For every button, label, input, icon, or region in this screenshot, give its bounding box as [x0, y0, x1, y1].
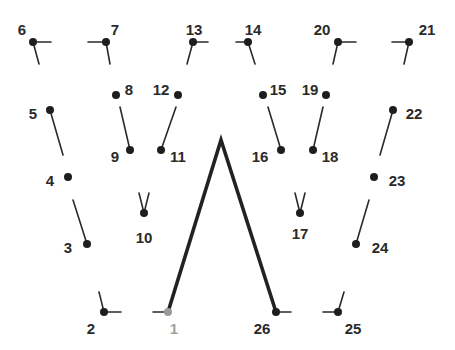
hint-stroke [356, 200, 369, 244]
dot-marker[interactable] [309, 146, 317, 154]
dot-3[interactable]: 3 [64, 239, 91, 256]
dot-marker[interactable] [370, 173, 378, 181]
dot-21[interactable]: 21 [405, 21, 435, 46]
dot-label: 24 [372, 239, 389, 256]
dot-layer: 1234567891011121314151617181920212223242… [18, 21, 436, 337]
dot-marker[interactable] [140, 209, 148, 217]
dot-label: 20 [314, 21, 331, 38]
dot-marker[interactable] [389, 106, 397, 114]
dot-14[interactable]: 14 [244, 21, 262, 46]
dot-marker[interactable] [277, 146, 285, 154]
dot-label: 13 [186, 21, 203, 38]
dot-20[interactable]: 20 [314, 21, 342, 46]
dot-22[interactable]: 22 [389, 105, 422, 122]
dot-23[interactable]: 23 [370, 172, 405, 189]
dot-marker[interactable] [334, 38, 342, 46]
dot-marker[interactable] [112, 91, 120, 99]
dot-marker[interactable] [174, 91, 182, 99]
dot-label: 8 [125, 81, 133, 98]
dot-19[interactable]: 19 [302, 81, 330, 99]
dot-marker[interactable] [352, 240, 360, 248]
dot-marker[interactable] [244, 38, 252, 46]
dot-12[interactable]: 12 [153, 81, 182, 99]
dot-marker[interactable] [189, 38, 197, 46]
dot-1[interactable]: 1 [164, 308, 178, 337]
dot-label: 12 [153, 81, 170, 98]
dot-marker[interactable] [29, 38, 37, 46]
dot-marker[interactable] [102, 38, 110, 46]
dot-5[interactable]: 5 [29, 105, 54, 122]
dot-marker[interactable] [259, 91, 267, 99]
dot-marker[interactable] [64, 173, 72, 181]
dot-label: 2 [87, 320, 95, 337]
dot-marker[interactable] [405, 38, 413, 46]
dot-marker[interactable] [126, 146, 134, 154]
dot-label: 15 [270, 81, 287, 98]
dot-label: 14 [245, 21, 262, 38]
dot-marker[interactable] [83, 240, 91, 248]
dot-marker[interactable] [334, 308, 342, 316]
dot-label: 10 [136, 229, 153, 246]
dot-4[interactable]: 4 [46, 172, 72, 189]
dot-label: 4 [46, 172, 55, 189]
dot-marker[interactable] [100, 308, 108, 316]
dot-16[interactable]: 16 [252, 146, 285, 165]
hint-strokes [33, 42, 409, 312]
dot-8[interactable]: 8 [112, 81, 133, 99]
dot-9[interactable]: 9 [111, 146, 134, 165]
dot-label: 16 [252, 148, 269, 165]
dot-17[interactable]: 17 [292, 209, 309, 242]
dot-11[interactable]: 11 [157, 146, 186, 165]
dot-marker[interactable] [272, 308, 280, 316]
hint-stroke [380, 110, 393, 155]
dot-7[interactable]: 7 [102, 21, 119, 46]
hint-stroke [73, 200, 87, 244]
dot-marker[interactable] [322, 91, 330, 99]
dot-18[interactable]: 18 [309, 146, 338, 165]
dot-marker[interactable] [164, 308, 172, 316]
dot-label: 25 [345, 320, 362, 337]
dot-puzzle-board[interactable]: 1234567891011121314151617181920212223242… [0, 0, 455, 350]
dot-26[interactable]: 26 [254, 308, 280, 337]
dot-label: 11 [170, 148, 186, 165]
hint-stroke [161, 107, 176, 150]
dot-15[interactable]: 15 [259, 81, 286, 99]
dot-6[interactable]: 6 [18, 21, 37, 46]
dot-label: 21 [419, 21, 436, 38]
hint-stroke [120, 107, 130, 150]
dot-label: 5 [29, 105, 37, 122]
dot-marker[interactable] [46, 106, 54, 114]
dot-label: 18 [322, 148, 339, 165]
dot-label: 26 [254, 320, 271, 337]
dot-10[interactable]: 10 [136, 209, 153, 246]
dot-marker[interactable] [296, 209, 304, 217]
dot-label: 23 [389, 172, 406, 189]
dot-label: 17 [292, 225, 309, 242]
dot-label: 6 [18, 21, 26, 38]
dot-25[interactable]: 25 [334, 308, 361, 337]
dot-label: 22 [406, 105, 423, 122]
hint-stroke [268, 107, 281, 150]
dot-label: 7 [111, 21, 119, 38]
drawn-path [168, 140, 276, 312]
dot-marker[interactable] [157, 146, 165, 154]
dot-24[interactable]: 24 [352, 239, 389, 256]
dot-label: 19 [302, 81, 319, 98]
hint-stroke [313, 107, 323, 150]
dot-label: 1 [170, 320, 178, 337]
dot-label: 9 [111, 148, 119, 165]
dot-2[interactable]: 2 [87, 308, 108, 337]
dot-label: 3 [64, 239, 72, 256]
hint-stroke [50, 110, 63, 155]
